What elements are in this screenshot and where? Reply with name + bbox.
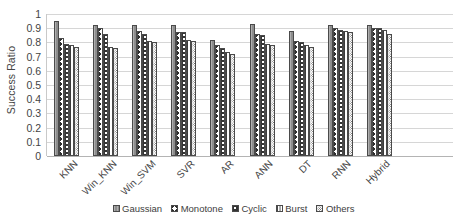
bar-knn-others bbox=[74, 47, 79, 156]
x-axis-label-rnn: RNN bbox=[330, 158, 353, 181]
bar-group-win_svm bbox=[125, 14, 164, 156]
y-axis-tick-0.9: 0.9 bbox=[26, 22, 41, 34]
x-axis-label-svr: SVR bbox=[174, 158, 196, 180]
bar-chart: Success Ratio 10.90.80.70.60.50.40.30.20… bbox=[0, 0, 467, 218]
legend-swatch-burst-icon bbox=[276, 205, 283, 212]
legend-item-cyclic[interactable]: Cyclic bbox=[232, 203, 267, 214]
legend-swatch-others-icon bbox=[316, 205, 323, 212]
x-axis-tick-labels: KNNWin_KNNWin_SVMSVRARANNDTRNNHybrid bbox=[46, 158, 452, 200]
bar-group-rnn bbox=[321, 14, 360, 156]
y-axis-tick-0.1: 0.1 bbox=[26, 136, 41, 148]
y-axis-tick-0.6: 0.6 bbox=[26, 65, 41, 77]
y-axis-tick-0.2: 0.2 bbox=[26, 122, 41, 134]
legend-item-gaussian[interactable]: Gaussian bbox=[113, 203, 163, 214]
x-axis-label-ar: AR bbox=[218, 158, 236, 176]
y-axis-tick-0.4: 0.4 bbox=[26, 93, 41, 105]
x-axis-label-ann: ANN bbox=[252, 158, 275, 181]
bar-group-ar bbox=[203, 14, 242, 156]
legend-label: Others bbox=[326, 203, 355, 214]
bar-group-svr bbox=[164, 14, 203, 156]
x-axis-label-win_knn: Win_KNN bbox=[80, 158, 119, 197]
plot-area bbox=[46, 14, 453, 156]
y-axis-tick-labels: 10.90.80.70.60.50.40.30.20.10 bbox=[18, 14, 44, 156]
y-axis-tick-0: 0 bbox=[35, 150, 41, 162]
y-axis-tick-1: 1 bbox=[35, 8, 41, 20]
legend-swatch-cyclic-icon bbox=[232, 205, 239, 212]
bar-win_knn-others bbox=[113, 48, 118, 156]
y-axis-title-text: Success Ratio bbox=[5, 46, 17, 114]
gridline bbox=[47, 156, 453, 157]
legend-item-monotone[interactable]: Monotone bbox=[171, 203, 223, 214]
bar-dt-others bbox=[309, 47, 314, 156]
legend-label: Gaussian bbox=[122, 203, 162, 214]
x-axis-label-hybrid: Hybrid bbox=[364, 158, 392, 186]
bar-rnn-others bbox=[348, 32, 353, 156]
bar-ann-others bbox=[270, 45, 275, 156]
bar-hybrid-others bbox=[387, 34, 392, 156]
bar-group-win_knn bbox=[86, 14, 125, 156]
bar-ar-others bbox=[230, 54, 235, 156]
legend-label: Monotone bbox=[181, 203, 223, 214]
y-axis-tick-0.5: 0.5 bbox=[26, 79, 41, 91]
y-axis-tick-0.7: 0.7 bbox=[26, 51, 41, 63]
bar-groups bbox=[47, 14, 453, 156]
x-axis-label-win_svm: Win_SVM bbox=[118, 158, 157, 197]
bar-group-dt bbox=[282, 14, 321, 156]
legend-item-burst[interactable]: Burst bbox=[276, 203, 308, 214]
bar-group-knn bbox=[47, 14, 86, 156]
legend-swatch-monotone-icon bbox=[171, 205, 178, 212]
legend-label: Cyclic bbox=[241, 203, 266, 214]
bar-win_svm-others bbox=[152, 42, 157, 156]
x-axis-label-knn: KNN bbox=[57, 158, 80, 181]
y-axis-tick-0.3: 0.3 bbox=[26, 107, 41, 119]
chart-legend: GaussianMonotoneCyclicBurstOthers bbox=[0, 200, 467, 216]
bar-group-ann bbox=[243, 14, 282, 156]
legend-item-others[interactable]: Others bbox=[316, 203, 354, 214]
legend-swatch-gaussian-icon bbox=[113, 205, 120, 212]
bar-group-hybrid bbox=[360, 14, 399, 156]
y-axis-tick-0.8: 0.8 bbox=[26, 36, 41, 48]
legend-label: Burst bbox=[285, 203, 307, 214]
x-axis-label-dt: DT bbox=[297, 158, 314, 175]
bar-svr-others bbox=[191, 41, 196, 156]
